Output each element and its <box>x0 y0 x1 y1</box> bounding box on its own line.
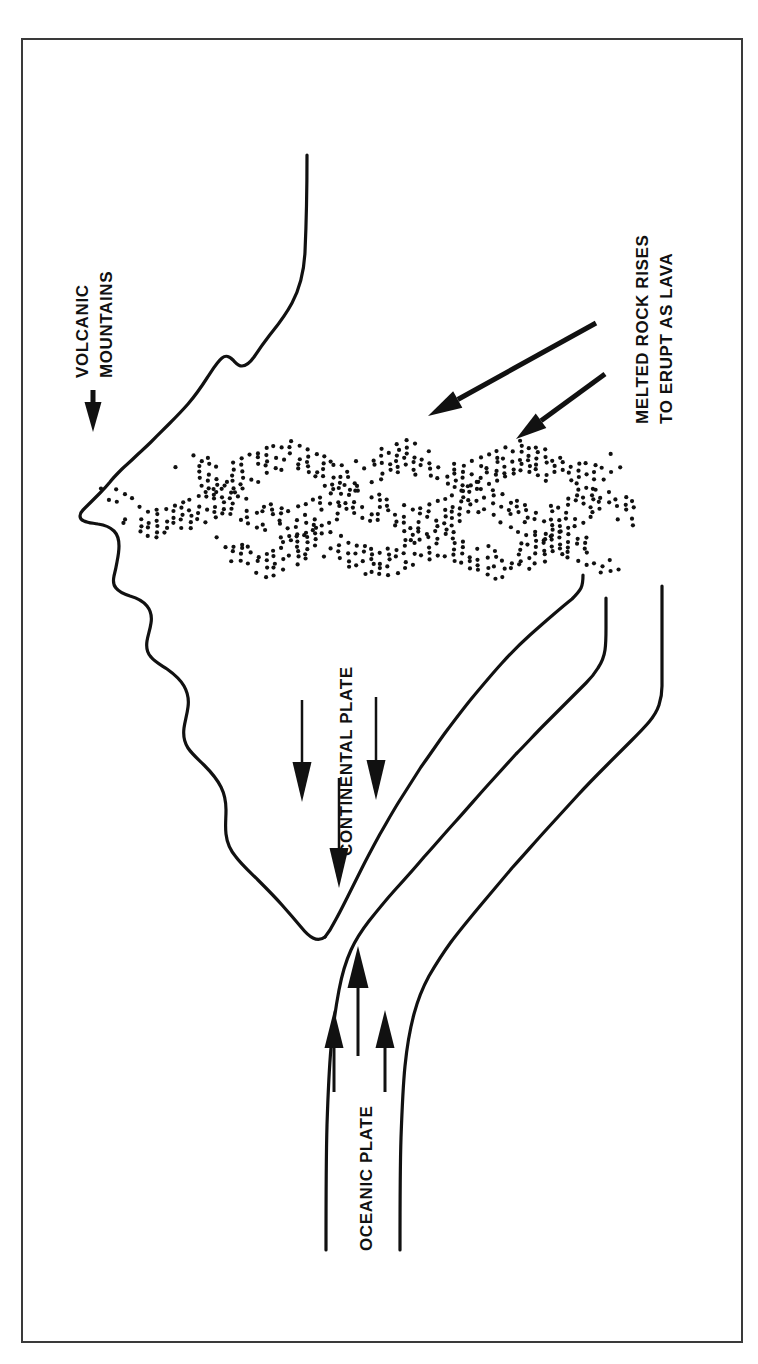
figure-root: VOLCANIC MOUNTAINS MELTED ROCK RISES TO … <box>0 0 758 1364</box>
melted-rock-label-line1: MELTED ROCK RISES <box>633 235 652 424</box>
continental-plate-label: CONTINENTAL PLATE <box>337 666 356 856</box>
page-background <box>0 0 758 1364</box>
volcanic-mountains-label-line1: VOLCANIC <box>73 284 92 378</box>
volcanic-mountains-label-line2: MOUNTAINS <box>97 271 116 378</box>
melted-rock-label-line2: TO ERUPT AS LAVA <box>657 253 676 424</box>
oceanic-plate-label: OCEANIC PLATE <box>357 1106 376 1251</box>
subduction-diagram: VOLCANIC MOUNTAINS MELTED ROCK RISES TO … <box>0 0 758 1364</box>
